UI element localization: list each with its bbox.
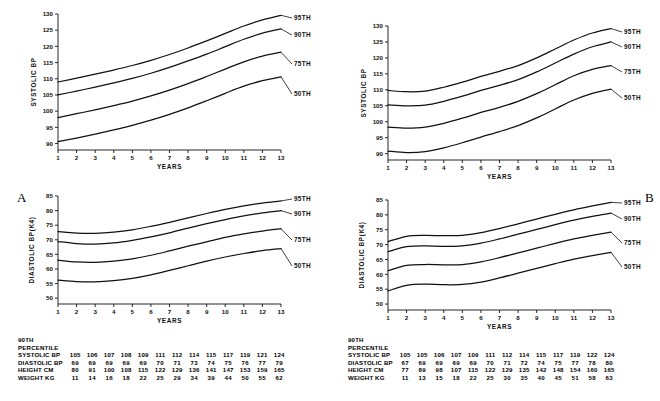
- table-cell: 29: [169, 374, 186, 382]
- y-axis-title: DIASTOLIC BP(K4): [358, 222, 366, 289]
- table-cell: 78: [584, 359, 601, 367]
- table-cell: 51: [567, 374, 584, 382]
- chart-panel-b-systolic: 9095100105110115120125130123456789101112…: [330, 2, 660, 182]
- y-tick-label: 60: [46, 265, 53, 272]
- table-cell: 112: [169, 351, 186, 359]
- percentile-curve-90th: [58, 211, 281, 245]
- table-row-label: HEIGHT CM: [348, 366, 397, 374]
- y-tick-label: 120: [43, 43, 54, 50]
- y-tick-label: 80: [376, 211, 383, 218]
- table-cell: 107: [448, 366, 465, 374]
- x-tick-label: 6: [149, 308, 153, 315]
- table-cell: 14: [84, 374, 101, 382]
- table-b-body: SYSTOLIC BP10510510610710911111211411511…: [348, 351, 618, 381]
- y-tick-label: 60: [376, 271, 383, 278]
- plot-area-panel-b-diastolic: 505560657075808512345678910111213YEARSDI…: [330, 186, 660, 336]
- table-cell: 148: [550, 366, 567, 374]
- x-tick-label: 11: [571, 164, 578, 171]
- x-tick-label: 8: [186, 154, 190, 161]
- table-b-header-line-2: PERCENTILE: [348, 344, 618, 352]
- y-tick-label: 75: [376, 226, 383, 233]
- table-cell: 159: [254, 366, 271, 374]
- curve-label-75th: 75TH: [294, 236, 311, 243]
- y-tick-label: 85: [46, 192, 53, 199]
- y-tick-label: 55: [376, 285, 383, 292]
- table-row: SYSTOLIC BP10510610710810911111211411511…: [18, 351, 288, 359]
- x-tick-label: 4: [442, 164, 446, 171]
- table-cell: 35: [516, 374, 533, 382]
- table-cell: 73: [186, 359, 203, 367]
- table-cell: 153: [237, 366, 254, 374]
- x-tick-label: 5: [131, 308, 135, 315]
- y-tick-label: 90: [46, 140, 53, 147]
- table-cell: 124: [601, 351, 618, 359]
- curve-label-leader: [611, 232, 622, 243]
- x-tick-label: 7: [168, 154, 172, 161]
- curve-label-90th: 90TH: [624, 43, 641, 50]
- x-tick-label: 10: [222, 154, 229, 161]
- table-cell: 79: [271, 359, 288, 367]
- x-tick-label: 12: [259, 308, 266, 315]
- curve-label-90th: 90TH: [624, 215, 641, 222]
- table-cell: 117: [220, 351, 237, 359]
- table-cell: 69: [414, 359, 431, 367]
- x-tick-label: 13: [608, 314, 615, 321]
- x-tick-label: 7: [498, 314, 502, 321]
- table-cell: 72: [516, 359, 533, 367]
- y-tick-label: 55: [46, 280, 53, 287]
- x-tick-label: 3: [423, 164, 427, 171]
- table-cell: 136: [186, 366, 203, 374]
- percentile-curve-50th: [388, 89, 611, 153]
- x-axis-title: YEARS: [157, 163, 182, 170]
- y-tick-label: 65: [376, 256, 383, 263]
- table-cell: 67: [397, 359, 414, 367]
- y-tick-label: 105: [373, 102, 384, 109]
- x-tick-label: 9: [205, 308, 209, 315]
- curve-label-leader: [611, 89, 622, 98]
- percentile-curve-75th: [388, 232, 611, 271]
- curve-label-50th: 50TH: [624, 263, 641, 270]
- table-row-label: WEIGHT KG: [18, 374, 67, 382]
- curve-label-leader: [281, 77, 292, 94]
- y-tick-label: 65: [46, 251, 53, 258]
- y-tick-label: 95: [46, 124, 53, 131]
- table-cell: 135: [516, 366, 533, 374]
- curve-label-leader: [281, 229, 292, 240]
- y-tick-label: 75: [46, 221, 53, 228]
- table-row-label: HEIGHT CM: [18, 366, 67, 374]
- table-a-body: SYSTOLIC BP10510610710810911111211411511…: [18, 351, 288, 381]
- curve-label-leader: [281, 199, 292, 201]
- percentile-curve-95th: [58, 15, 281, 82]
- table-cell: 76: [237, 359, 254, 367]
- x-tick-label: 12: [589, 164, 596, 171]
- x-tick-label: 4: [112, 154, 116, 161]
- x-tick-label: 11: [571, 314, 578, 321]
- table-cell: 77: [254, 359, 271, 367]
- curve-label-leader: [611, 66, 622, 72]
- panel-letter-b: B: [645, 190, 654, 206]
- table-cell: 70: [482, 359, 499, 367]
- curve-label-leader: [281, 29, 292, 35]
- table-row-label: DIASTOLIC BP: [348, 359, 397, 367]
- table-cell: 147: [220, 366, 237, 374]
- table-cell: 77: [397, 366, 414, 374]
- table-row-label: WEIGHT KG: [348, 374, 397, 382]
- y-tick-label: 100: [373, 118, 384, 125]
- x-tick-label: 1: [56, 308, 60, 315]
- x-tick-label: 13: [608, 164, 615, 171]
- table-row-label: SYSTOLIC BP: [18, 351, 67, 359]
- curve-label-leader: [281, 211, 292, 214]
- table-cell: 71: [169, 359, 186, 367]
- table-cell: 69: [465, 359, 482, 367]
- y-tick-label: 50: [376, 300, 383, 307]
- data-table-panel-b: 90TH PERCENTILE SYSTOLIC BP1051051061071…: [348, 336, 618, 382]
- curve-label-90th: 90TH: [294, 210, 311, 217]
- table-cell: 11: [397, 374, 414, 382]
- y-tick-label: 105: [43, 91, 54, 98]
- curve-label-50th: 50TH: [294, 262, 311, 269]
- y-axis-title: DIASTOLIC BP(K4): [28, 217, 36, 284]
- x-tick-label: 2: [75, 308, 79, 315]
- table-row: DIASTOLIC BP69696969697071737475767779: [18, 359, 288, 367]
- table-cell: 160: [584, 366, 601, 374]
- curve-label-75th: 75TH: [624, 239, 641, 246]
